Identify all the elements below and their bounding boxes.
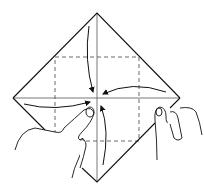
origami-diagram: [0, 0, 204, 191]
arrow-left-icon: [24, 102, 90, 108]
right-hand-icon: [155, 107, 202, 160]
arrow-top-icon: [87, 26, 93, 92]
arrow-bottom-icon: [101, 106, 106, 165]
left-hand-icon: [15, 107, 94, 178]
arrow-right-icon: [103, 86, 166, 94]
